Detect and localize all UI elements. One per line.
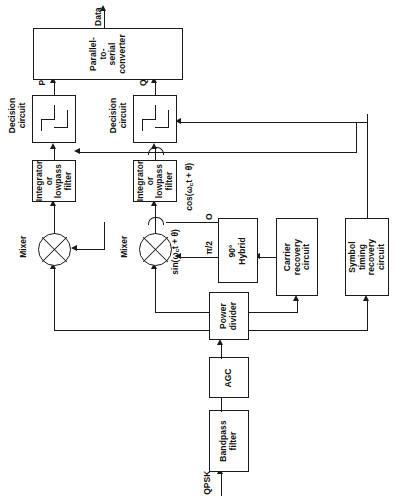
wire-cos-lo-drop xyxy=(104,222,105,250)
block-power-divider-label: Powerdivider xyxy=(219,302,238,331)
wire-qpsk-input xyxy=(221,472,222,496)
block-bandpass-filter-label: Bandpassfilter xyxy=(219,420,238,461)
wire-carrier-recovery-riser xyxy=(297,300,298,313)
wire-symbol-timing-clock-riser xyxy=(367,114,368,218)
arrowhead-decision-p-clock xyxy=(74,148,80,154)
block-mixer-q xyxy=(139,233,172,266)
block-integrator-p: Integratororlowpassfilter xyxy=(32,160,76,202)
arrowhead-mixer-p-lo xyxy=(71,245,77,251)
wire-mixer-q-to-integrator-q xyxy=(155,204,156,234)
block-90-hybrid-label: 90°Hybrid xyxy=(228,237,247,265)
wire-decision-q-to-converter xyxy=(155,82,156,96)
block-90-hybrid: 90°Hybrid xyxy=(218,218,258,283)
block-symbol-timing-recovery-circuit-label: Symboltimingrecoverycircuit xyxy=(348,239,386,275)
block-decision-circuit-q xyxy=(133,95,177,143)
threshold-waveform-icon-q xyxy=(134,96,178,144)
wire-symbol-timing-riser xyxy=(367,300,368,331)
wire-divider-to-mixer-p xyxy=(54,330,210,331)
wire-mixer-p-to-integrator-p xyxy=(54,204,55,234)
block-integrator-q: Integratororlowpassfilter xyxy=(133,160,177,202)
wire-agc-to-power-divider xyxy=(221,343,222,359)
threshold-waveform-icon-p xyxy=(33,96,77,144)
wire-divider-to-symbol-timing xyxy=(248,330,368,331)
wire-decision-p-to-converter xyxy=(54,82,55,96)
wire-crossover-hop-decision-p-clock xyxy=(148,147,164,155)
block-carrier-recovery-circuit: Carrierrecoverycircuit xyxy=(276,218,318,296)
label-lo-sin: sin(ωct + θ) xyxy=(171,221,181,283)
label-data-output: Data xyxy=(94,0,104,37)
wire-carrier-recovery-to-hybrid xyxy=(259,257,277,258)
block-mixer-q-label: Mixer xyxy=(120,229,130,265)
block-decision-circuit-q-label: Decisioncircuit xyxy=(109,90,128,142)
block-decision-circuit-p xyxy=(32,95,76,143)
block-parallel-to-serial-converter-label: Parallel-to-serialconverter xyxy=(89,34,127,74)
wire-divider-to-mixer-q xyxy=(155,312,210,313)
wire-bandpass-to-agc xyxy=(221,396,222,412)
wire-clock-to-decision-q xyxy=(180,122,368,123)
wire-data-output xyxy=(104,10,105,28)
block-carrier-recovery-circuit-label: Carrierrecoverycircuit xyxy=(283,239,312,275)
block-mixer-p-label: Mixer xyxy=(19,229,29,265)
qpsk-demodulator-diagram: QPSK Bandpassfilter AGC Powerdivider Car… xyxy=(0,0,407,504)
wire-divider-to-carrier-recovery xyxy=(248,312,298,313)
label-lo-cos: cos(ωct + θ) xyxy=(185,156,195,218)
wire-clock-to-decision-p xyxy=(79,152,357,153)
block-bandpass-filter: Bandpassfilter xyxy=(209,410,249,472)
block-symbol-timing-recovery-circuit: Symboltimingrecoverycircuit xyxy=(345,218,389,296)
block-agc: AGC xyxy=(209,357,249,398)
wire-hybrid-pi2-out xyxy=(180,257,219,258)
block-agc-label: AGC xyxy=(224,368,234,387)
block-power-divider: Powerdivider xyxy=(209,292,249,340)
block-parallel-to-serial-converter: Parallel-to-serialconverter xyxy=(33,28,183,80)
block-decision-circuit-p-label: Decisioncircuit xyxy=(8,90,27,142)
block-integrator-q-label: Integratororlowpassfilter xyxy=(136,161,174,202)
block-integrator-p-label: Integratororlowpassfilter xyxy=(35,161,73,202)
wire-cos-lo-to-mixer-p xyxy=(76,249,105,250)
wire-divider-to-mixer-p-riser xyxy=(54,268,55,331)
wire-integrator-p-to-decision-p xyxy=(54,148,55,161)
block-mixer-p xyxy=(38,233,71,266)
label-hybrid-port-0: O xyxy=(205,203,215,231)
wire-clock-to-decision-p-riser xyxy=(356,122,357,153)
wire-divider-to-mixer-q-riser xyxy=(155,268,156,313)
